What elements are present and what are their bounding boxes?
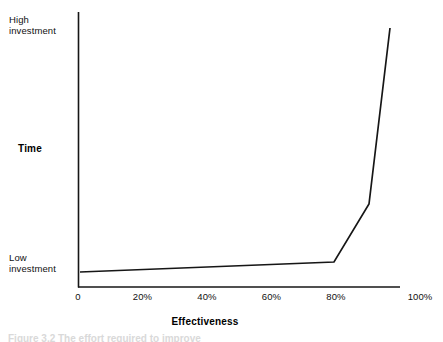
x-tick-label-40: 40% <box>197 291 216 302</box>
data-series-line <box>80 28 390 272</box>
chart-plot <box>0 0 443 342</box>
x-tick-label-60: 60% <box>262 291 281 302</box>
x-tick-label-20: 20% <box>133 291 152 302</box>
x-tick-label-80: 80% <box>326 291 345 302</box>
figure-container: High investment Low investment Time 0 20… <box>0 0 443 342</box>
y-axis-title: Time <box>18 143 42 154</box>
x-tick-label-100: 100% <box>408 291 433 302</box>
y-axis-label-low: Low investment <box>9 252 56 274</box>
x-axis-title: Effectiveness <box>0 316 410 327</box>
x-tick-label-0: 0 <box>75 291 80 302</box>
figure-caption: Figure 3.2 The effort required to improv… <box>8 333 308 342</box>
y-axis-label-high: High investment <box>9 14 56 36</box>
